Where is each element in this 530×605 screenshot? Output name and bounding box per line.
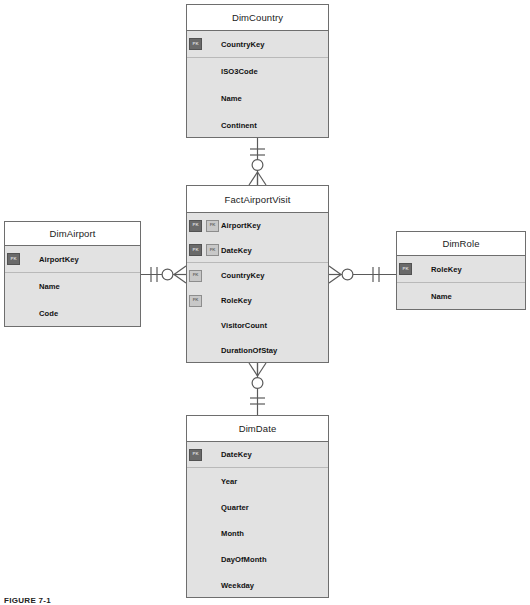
badge-slot: FK [187, 288, 204, 313]
badge-slot [204, 468, 221, 494]
field-name: RoleKey [431, 265, 462, 274]
entity-dim-role[interactable]: DimRolePKRoleKeyName [396, 231, 526, 310]
fk-key-icon: FK [189, 270, 202, 282]
field-row[interactable]: Weekday [187, 572, 328, 598]
entity-fields-dim-role: PKRoleKeyName [397, 256, 525, 310]
badge-slot [397, 283, 414, 310]
entity-title-fact-airport-visit: FactAirportVisit [187, 186, 328, 213]
badge-slot [204, 58, 221, 85]
entity-title-dim-role: DimRole [397, 232, 525, 256]
badge-slot: PK [187, 31, 204, 57]
field-name: AirportKey [39, 255, 79, 264]
field-row[interactable]: Continent [187, 112, 328, 139]
badge-slot: PK [397, 256, 414, 282]
badge-slot [22, 273, 39, 300]
badge-slot: FK [204, 213, 221, 238]
entity-dim-country[interactable]: DimCountryPKCountryKeyISO3CodeNameContin… [186, 4, 329, 138]
field-row[interactable]: VisitorCount [187, 313, 328, 338]
badge-slot [187, 546, 204, 572]
pk-key-icon: PK [189, 38, 202, 50]
badge-slot [414, 256, 431, 282]
badge-slot [22, 300, 39, 327]
badge-slot [204, 572, 221, 598]
field-name: Name [39, 282, 60, 291]
field-row[interactable]: ISO3Code [187, 58, 328, 85]
field-row[interactable]: FKRoleKey [187, 288, 328, 313]
field-name: Name [431, 292, 452, 301]
badge-slot [22, 246, 39, 272]
pk-key-icon: PK [7, 253, 20, 265]
connector-airport-fact [141, 266, 186, 283]
badge-slot [204, 313, 221, 338]
field-row[interactable]: PKFKDateKey [187, 238, 328, 263]
field-name: RoleKey [221, 296, 252, 305]
badge-slot [187, 313, 204, 338]
badge-slot [5, 300, 22, 327]
entity-dim-airport[interactable]: DimAirportPKAirportKeyNameCode [4, 221, 141, 327]
badge-slot [187, 572, 204, 598]
field-row[interactable]: FKCountryKey [187, 263, 328, 288]
badge-slot [204, 263, 221, 288]
field-name: CountryKey [221, 40, 265, 49]
badge-slot [187, 85, 204, 112]
badge-slot [204, 288, 221, 313]
field-name: CountryKey [221, 271, 265, 280]
field-name: Continent [221, 121, 257, 130]
fk-key-icon: FK [206, 244, 219, 256]
field-name: DateKey [221, 246, 252, 255]
fk-key-icon: FK [189, 295, 202, 307]
fk-key-icon: FK [206, 220, 219, 232]
pk-key-icon: PK [399, 263, 412, 275]
field-row[interactable]: Code [5, 300, 140, 327]
field-row[interactable]: Name [187, 85, 328, 112]
badge-slot [5, 273, 22, 300]
field-name: DayOfMonth [221, 555, 267, 564]
field-row[interactable]: DurationOfStay [187, 338, 328, 363]
entity-dim-date[interactable]: DimDatePKDateKeyYearQuarterMonthDayOfMon… [186, 415, 329, 598]
field-row[interactable]: PKAirportKey [5, 246, 140, 273]
badge-slot: FK [187, 263, 204, 288]
badge-slot [204, 494, 221, 520]
field-name: Quarter [221, 503, 249, 512]
badge-slot: PK [187, 238, 204, 262]
entity-fact-airport-visit[interactable]: FactAirportVisitPKFKAirportKeyPKFKDateKe… [186, 185, 329, 363]
pk-key-icon: PK [189, 220, 202, 232]
badge-slot: PK [187, 213, 204, 238]
field-row[interactable]: PKFKAirportKey [187, 213, 328, 238]
field-row[interactable]: PKCountryKey [187, 31, 328, 58]
connector-date-fact [249, 363, 266, 415]
field-name: Year [221, 477, 237, 486]
badge-slot: FK [204, 238, 221, 262]
badge-slot [204, 520, 221, 546]
field-name: Code [39, 309, 58, 318]
badge-slot: PK [187, 442, 204, 467]
badge-slot [187, 520, 204, 546]
entity-fields-dim-date: PKDateKeyYearQuarterMonthDayOfMonthWeekd… [187, 442, 328, 598]
field-row[interactable]: DayOfMonth [187, 546, 328, 572]
badge-slot [187, 58, 204, 85]
field-name: Name [221, 94, 242, 103]
field-name: DateKey [221, 450, 252, 459]
badge-slot: PK [5, 246, 22, 272]
entity-title-dim-date: DimDate [187, 416, 328, 442]
pk-key-icon: PK [189, 449, 202, 461]
badge-slot [187, 112, 204, 139]
field-row[interactable]: Year [187, 468, 328, 494]
badge-slot [204, 546, 221, 572]
badge-slot [187, 468, 204, 494]
field-row[interactable]: PKDateKey [187, 442, 328, 468]
pk-key-icon: PK [189, 244, 202, 256]
figure-caption: FIGURE 7-1 [4, 596, 51, 605]
field-name: VisitorCount [221, 321, 267, 330]
entity-fields-dim-airport: PKAirportKeyNameCode [5, 246, 140, 327]
badge-slot [204, 112, 221, 139]
er-diagram-canvas: DimCountryPKCountryKeyISO3CodeNameContin… [0, 0, 530, 605]
entity-fields-fact-airport-visit: PKFKAirportKeyPKFKDateKeyFKCountryKeyFKR… [187, 213, 328, 363]
field-row[interactable]: Month [187, 520, 328, 546]
field-name: ISO3Code [221, 67, 258, 76]
field-row[interactable]: PKRoleKey [397, 256, 525, 283]
field-row[interactable]: Name [5, 273, 140, 300]
field-name: Month [221, 529, 244, 538]
field-row[interactable]: Name [397, 283, 525, 310]
field-row[interactable]: Quarter [187, 494, 328, 520]
